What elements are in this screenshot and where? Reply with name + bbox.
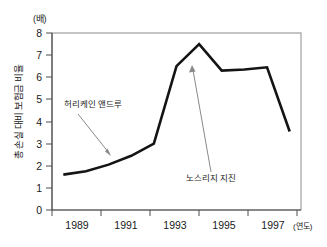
- y-tick-label-4: 4: [36, 116, 42, 128]
- y-axis-ticks: [46, 33, 52, 210]
- plot-area: 0 1 2 3 4 5 6 7 8 1989: [0, 0, 327, 247]
- y-tick-label-7: 7: [36, 49, 42, 61]
- y-tick-label-1: 1: [36, 182, 42, 194]
- x-tick-label-1989: 1989: [65, 219, 89, 231]
- x-tick-label-1993: 1993: [163, 219, 187, 231]
- y-tick-label-6: 6: [36, 71, 42, 83]
- x-axis-unit-label: (연도): [293, 222, 313, 231]
- annotation-hurricane-andrew-label: 허리케인 앤드루: [64, 99, 122, 109]
- y-tick-label-3: 3: [36, 138, 42, 150]
- plot-frame: [52, 33, 301, 210]
- x-axis-tick-labels: 1989 1991 1993 1995 1997 (연도): [65, 219, 312, 231]
- annotation-northridge-label: 노스리지 지진: [186, 173, 236, 183]
- x-tick-label-1995: 1995: [212, 219, 236, 231]
- line-chart-svg: 0 1 2 3 4 5 6 7 8 1989: [0, 0, 327, 247]
- y-axis-tick-labels: 0 1 2 3 4 5 6 7 8: [36, 27, 42, 216]
- y-tick-label-8: 8: [36, 27, 42, 39]
- chart-page: (배) 총 손실 대비 보험금 비율 0: [0, 0, 327, 247]
- x-axis-ticks: [52, 210, 297, 216]
- y-tick-label-2: 2: [36, 160, 42, 172]
- y-tick-label-5: 5: [36, 93, 42, 105]
- x-tick-label-1997: 1997: [261, 219, 285, 231]
- y-tick-label-0: 0: [36, 204, 42, 216]
- x-tick-label-1991: 1991: [114, 219, 138, 231]
